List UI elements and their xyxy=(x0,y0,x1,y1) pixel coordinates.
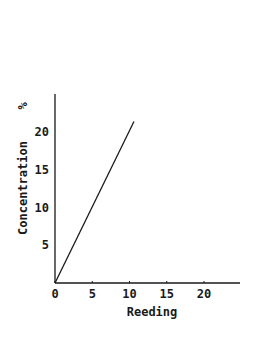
x-tick-label: 5 xyxy=(89,287,96,301)
chart: 05101520 5101520 Reeding Concentration % xyxy=(0,0,259,340)
y-tick-label: 20 xyxy=(35,125,49,139)
y-axis-label: Concentration xyxy=(16,141,30,235)
y-tick-label: 15 xyxy=(35,163,49,177)
x-tick-labels: 05101520 xyxy=(51,281,211,301)
x-tick-label: 20 xyxy=(197,287,211,301)
x-tick-label: 0 xyxy=(51,287,58,301)
series-line xyxy=(55,121,134,283)
y-tick-label: 10 xyxy=(35,201,49,215)
data-series xyxy=(55,121,134,283)
y-tick-labels: 5101520 xyxy=(35,125,49,252)
x-tick-label: 15 xyxy=(160,287,174,301)
y-tick-label: 5 xyxy=(42,238,49,252)
x-tick-label: 10 xyxy=(122,287,136,301)
y-axis-unit: % xyxy=(16,102,30,110)
x-axis-label: Reeding xyxy=(127,305,178,319)
